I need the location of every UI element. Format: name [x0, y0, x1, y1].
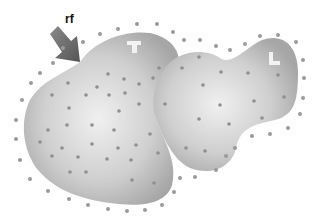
rf-arrow-icon [50, 26, 80, 62]
left-region-t [24, 32, 179, 204]
rf-label: rf [65, 12, 74, 26]
receptive-field-diagram [0, 0, 319, 223]
